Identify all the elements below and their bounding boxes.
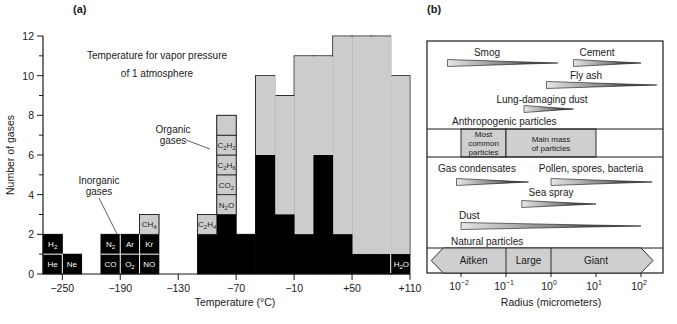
formula-part: CO: [105, 260, 117, 269]
formula-part: Ar: [126, 240, 134, 249]
bar-inorganic-fill: [217, 215, 236, 275]
x-tick-label: −250: [50, 282, 74, 294]
band-label: of particles: [532, 144, 571, 153]
bar-organic-fill: [295, 56, 315, 234]
band-label: Main mass: [532, 135, 571, 144]
x-tick-label: +50: [343, 282, 361, 294]
natural-particles-label: Natural particles: [451, 236, 523, 247]
bar-inorganic-fill: [313, 155, 333, 274]
x-tick-label: +110: [399, 282, 422, 294]
panel-b-label: (b): [427, 3, 441, 15]
tick-base: 10: [541, 280, 553, 292]
panel-a-label: (a): [73, 3, 87, 15]
tick-exponent: 0: [553, 279, 557, 286]
x-tick-label: 10−1: [494, 279, 514, 292]
annotation-organic-leader: [186, 140, 210, 149]
size-class-aitken: Aitken: [460, 255, 488, 266]
y-tick-label: 6: [28, 149, 34, 161]
bar-organic-fill: [353, 37, 373, 255]
chart-title-line-2: of 1 atmosphere: [121, 68, 194, 79]
size-range-label: Dust: [459, 210, 480, 221]
y-tick-label: 12: [22, 30, 34, 42]
bar-organic-fill: [372, 37, 392, 255]
tick-base: 10: [586, 280, 598, 292]
bar-organic-fill: [333, 37, 353, 235]
y-axis-label: Number of gases: [4, 115, 16, 195]
gas-label: Ne: [67, 260, 78, 269]
tick-base: 10: [494, 280, 506, 292]
band-label: particles: [469, 148, 499, 157]
y-tick-label: 4: [28, 189, 34, 201]
size-range-label: Sea spray: [528, 187, 573, 198]
y-tick-label: 0: [28, 268, 34, 280]
tick-exponent: −1: [506, 279, 514, 286]
x-tick-label: 101: [586, 279, 602, 292]
gas-label: NO: [143, 260, 155, 269]
gas-label: He: [48, 260, 59, 269]
bar-inorganic-fill: [198, 234, 217, 274]
x-tick-label: 100: [541, 279, 557, 292]
figure: (a) HeH2​NeCON2​O2​ArNOKrCH4​C2​H4​N2​OC…: [0, 0, 677, 324]
size-range-label: Fly ash: [570, 70, 602, 81]
annotation-organic-line-2: gases: [160, 135, 187, 146]
band-label: Most: [475, 130, 493, 139]
bar-organic-fill: [275, 96, 295, 214]
anthropogenic-particles-label: Anthropogenic particles: [452, 116, 557, 127]
annotation-inorganic-line-2: gases: [86, 186, 113, 197]
annotation-organic-line-1: Organic: [155, 124, 190, 135]
bar-inorganic-fill: [371, 254, 391, 274]
formula-part: Kr: [145, 240, 153, 249]
gas-label: Kr: [145, 240, 153, 249]
x-axis-label: Temperature (°C): [195, 296, 276, 308]
x-tick-label: −190: [108, 282, 132, 294]
bar-inorganic-fill: [294, 234, 314, 274]
gas-label: Ar: [126, 240, 134, 249]
tick-exponent: 1: [598, 279, 602, 286]
tick-exponent: −2: [461, 279, 469, 286]
tick-exponent: 2: [643, 279, 647, 286]
formula-part: Ne: [67, 260, 78, 269]
formula-part: He: [48, 260, 59, 269]
tick-base: 10: [631, 280, 643, 292]
gas-cell-empty: [217, 115, 236, 135]
x-tick-label: 102: [631, 279, 647, 292]
size-range-label: Pollen, spores, bacteria: [539, 163, 644, 174]
panel-a: (a) HeH2​NeCON2​O2​ArNOKrCH4​C2​H4​N2​OC…: [4, 3, 422, 308]
band-label: common: [468, 139, 499, 148]
size-class-giant: Giant: [584, 255, 608, 266]
bar-inorganic-fill: [333, 234, 353, 274]
bar-organic-fill: [256, 76, 276, 155]
x-tick-label: −130: [166, 282, 190, 294]
y-tick-label: 10: [22, 70, 34, 82]
chart-title-line-1: Temperature for vapor pressure: [87, 50, 228, 61]
formula-part: CO: [219, 181, 231, 190]
bar-inorganic-fill: [236, 234, 255, 274]
formula-part: O: [228, 201, 234, 210]
formula-part: CH: [142, 220, 154, 229]
bar-inorganic-fill: [352, 254, 372, 274]
x-tick-label: 10−2: [449, 279, 469, 292]
formula-part: O: [403, 260, 409, 269]
particle-size-diagram: MostcommonparticlesMain massof particles…: [427, 41, 663, 292]
size-range-label: Smog: [474, 47, 500, 58]
panel-b: (b) MostcommonparticlesMain massof parti…: [427, 3, 663, 308]
size-range-label: Lung-damaging dust: [496, 94, 587, 105]
size-class-large: Large: [516, 255, 542, 266]
bar-organic-fill: [391, 76, 409, 254]
annotation-inorganic-leader: [99, 198, 117, 234]
x-tick-label: −70: [227, 282, 245, 294]
gas-label: CO: [105, 260, 117, 269]
size-range-label: Gas condensates: [438, 163, 516, 174]
size-range-label: Cement: [579, 47, 614, 58]
x-tick-label: −10: [285, 282, 303, 294]
annotation-inorganic-line-1: Inorganic: [78, 175, 119, 186]
tick-base: 10: [449, 280, 461, 292]
x-axis-label-radius: Radius (micrometers): [501, 296, 601, 308]
bar-organic-fill: [314, 56, 334, 155]
formula-part: NO: [143, 260, 155, 269]
bar-inorganic-fill: [275, 215, 295, 275]
y-tick-label: 8: [28, 109, 34, 121]
bar-inorganic-fill: [255, 155, 275, 274]
y-tick-label: 2: [28, 228, 34, 240]
